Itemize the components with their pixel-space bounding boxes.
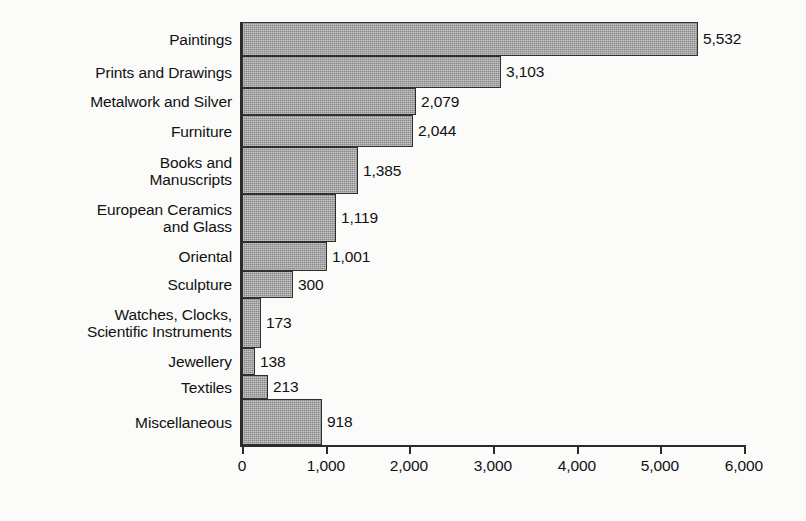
bar-chart: PaintingsPrints and DrawingsMetalwork an… [0, 0, 806, 521]
bar [242, 194, 336, 242]
category-label: Oriental [179, 248, 240, 265]
x-axis-tick [326, 445, 328, 454]
x-axis-tick [577, 445, 579, 454]
bar-value-label: 5,532 [703, 30, 741, 47]
category-label: Jewellery [168, 353, 240, 370]
bar [242, 56, 501, 88]
category-label: Prints and Drawings [95, 64, 240, 81]
x-axis-tick [409, 445, 411, 454]
bar-value-label: 173 [266, 314, 292, 331]
bar-value-label: 1,119 [341, 209, 378, 226]
bar [242, 115, 413, 147]
x-axis-tick-label: 5,000 [641, 457, 679, 475]
bar-value-label: 2,079 [421, 93, 459, 110]
x-axis-tick [660, 445, 662, 454]
bar [242, 22, 698, 56]
x-axis-tick-label: 4,000 [558, 457, 596, 475]
y-axis-line [240, 22, 242, 447]
bar-value-label: 300 [298, 276, 324, 293]
category-label: Metalwork and Silver [90, 93, 240, 110]
category-label: Miscellaneous [135, 414, 240, 431]
x-axis-tick-label: 6,000 [725, 457, 763, 475]
category-label: Furniture [171, 123, 240, 140]
x-axis-tick [493, 445, 495, 454]
x-axis-tick [242, 445, 244, 454]
bar [242, 348, 255, 375]
bar-value-label: 1,385 [363, 162, 401, 179]
category-label: Watches, Clocks, Scientific Instruments [87, 306, 240, 340]
x-axis-tick-label: 1,000 [307, 457, 345, 475]
bar-value-label: 2,044 [418, 122, 456, 139]
bar-value-label: 918 [327, 413, 353, 430]
bar [242, 88, 416, 115]
category-label: Sculpture [167, 276, 240, 293]
category-label: European Ceramics and Glass [97, 201, 240, 235]
bar [242, 271, 293, 298]
bar-value-label: 1,001 [332, 248, 370, 265]
x-axis-tick-label: 3,000 [474, 457, 512, 475]
bar [242, 147, 358, 194]
bar [242, 242, 327, 271]
x-axis-tick-label: 2,000 [390, 457, 428, 475]
bar-value-label: 213 [273, 378, 299, 395]
x-axis-tick-label: 0 [238, 457, 247, 475]
bar [242, 399, 322, 445]
bar-value-label: 3,103 [506, 63, 544, 80]
bar-value-label: 138 [260, 353, 286, 370]
bar [242, 375, 268, 399]
bar [242, 298, 261, 348]
x-axis-tick [744, 445, 746, 454]
category-label: Paintings [169, 31, 240, 48]
category-label: Books and Manuscripts [150, 154, 240, 188]
category-label: Textiles [181, 379, 240, 396]
